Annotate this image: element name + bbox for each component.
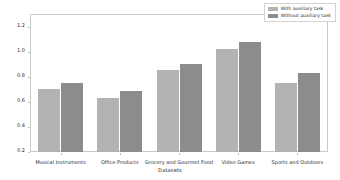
bar-group: Office Products	[90, 14, 149, 152]
x-tick-mark	[120, 153, 121, 156]
y-tick-mark	[28, 52, 31, 53]
x-tick-mark	[297, 153, 298, 156]
legend-swatch-icon	[268, 14, 278, 19]
y-tick-mark	[28, 152, 31, 153]
y-tick-label: 0.6	[17, 98, 25, 103]
legend: With auxiliary task Without auxiliary ta…	[264, 3, 336, 22]
bar-without-auxiliary	[239, 42, 261, 152]
x-tick-label: Grocery and Gourmet Food	[145, 160, 213, 165]
y-tick-mark	[28, 77, 31, 78]
y-tick-label: 0.4	[17, 123, 25, 128]
x-tick-label: Sports and Outdoors	[272, 160, 324, 165]
y-tick-label: 1.2	[17, 23, 25, 28]
y-tick-mark	[28, 102, 31, 103]
bar-with-auxiliary	[38, 89, 60, 152]
y-tick-mark	[28, 27, 31, 28]
x-tick-label: Video Games	[222, 160, 255, 165]
bar-with-auxiliary	[216, 49, 238, 152]
x-axis-label: Datasets	[0, 167, 340, 173]
bar-without-auxiliary	[180, 64, 202, 152]
legend-swatch-icon	[268, 7, 278, 12]
bar-without-auxiliary	[61, 83, 83, 152]
bar-without-auxiliary	[298, 73, 320, 152]
x-tick-mark	[238, 153, 239, 156]
bar-chart-figure: MSE 1.2 1.0 0.8 0.6 0.4 0.2	[0, 0, 340, 180]
bar-series-container: Musical Instruments Office Products Groc…	[31, 14, 327, 152]
x-tick-label: Musical Instruments	[35, 160, 85, 165]
bar-group: Sports and Outdoors	[268, 14, 327, 152]
bar-with-auxiliary	[97, 98, 119, 152]
legend-item-without-auxiliary: Without auxiliary task	[268, 14, 331, 19]
x-tick-label: Office Products	[101, 160, 139, 165]
bar-group: Musical Instruments	[31, 14, 90, 152]
bar-with-auxiliary	[275, 83, 297, 152]
bar-group: Video Games	[209, 14, 268, 152]
bar-group: Grocery and Gourmet Food	[149, 14, 208, 152]
y-tick-label: 0.8	[17, 73, 25, 78]
y-tick-label: 1.0	[17, 48, 25, 53]
y-tick-mark	[28, 127, 31, 128]
legend-label: With auxiliary task	[281, 7, 324, 12]
legend-item-with-auxiliary: With auxiliary task	[268, 7, 331, 12]
y-tick-label: 0.2	[17, 148, 25, 153]
x-tick-mark	[61, 153, 62, 156]
bar-without-auxiliary	[120, 91, 142, 152]
legend-label: Without auxiliary task	[281, 14, 331, 19]
bar-with-auxiliary	[157, 70, 179, 152]
x-tick-mark	[179, 153, 180, 156]
